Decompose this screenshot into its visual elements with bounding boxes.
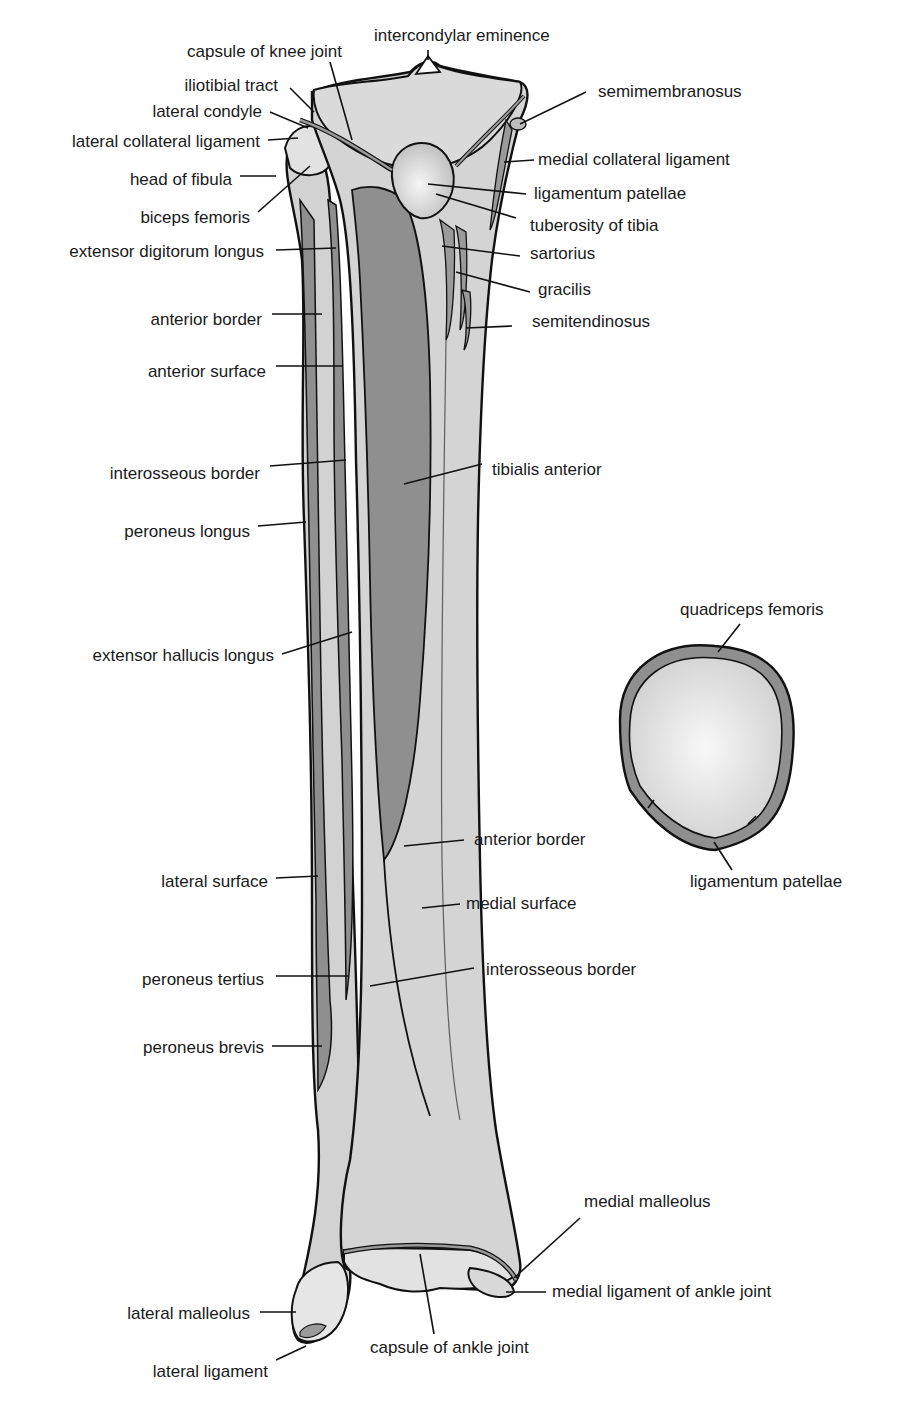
label-sartorius: sartorius [530, 244, 595, 264]
label-semitendinosus: semitendinosus [532, 312, 650, 332]
leader-medial-malleolus [514, 1218, 580, 1278]
label-capsule-of-ankle-joint: capsule of ankle joint [370, 1338, 529, 1358]
label-quadriceps-femoris: quadriceps femoris [680, 600, 824, 620]
label-lateral-surface: lateral surface [161, 872, 268, 892]
label-ligamentum-patellae-patella: ligamentum patellae [690, 872, 842, 892]
label-medial-surface: medial surface [466, 894, 577, 914]
label-iliotibial-tract: iliotibial tract [184, 76, 278, 96]
label-lateral-collateral-ligament: lateral collateral ligament [72, 132, 260, 152]
label-medial-ligament-of-ankle-joint: medial ligament of ankle joint [552, 1282, 771, 1302]
patella [620, 645, 794, 850]
label-anterior-border-fibula: anterior border [150, 310, 262, 330]
leader-peroneus-longus [258, 522, 306, 526]
anatomy-illustration [0, 0, 904, 1402]
label-ligamentum-patellae: ligamentum patellae [534, 184, 686, 204]
label-lateral-malleolus: lateral malleolus [127, 1304, 250, 1324]
label-peroneus-longus: peroneus longus [124, 522, 250, 542]
semimembranosus-attachment [510, 118, 526, 130]
label-medial-collateral-ligament: medial collateral ligament [538, 150, 730, 170]
label-lateral-condyle: lateral condyle [152, 102, 262, 122]
label-intercondylar-eminence: intercondylar eminence [374, 26, 550, 46]
label-gracilis: gracilis [538, 280, 591, 300]
label-peroneus-tertius: peroneus tertius [142, 970, 264, 990]
label-interosseous-border-fibula: interosseous border [110, 464, 260, 484]
label-tibialis-anterior: tibialis anterior [492, 460, 602, 480]
leader-iliotibial [290, 88, 314, 112]
label-extensor-digitorum-longus: extensor digitorum longus [69, 242, 264, 262]
label-biceps-femoris: biceps femoris [140, 208, 250, 228]
label-peroneus-brevis: peroneus brevis [143, 1038, 264, 1058]
label-tuberosity-of-tibia: tuberosity of tibia [530, 216, 659, 236]
leader-lateral-ligament [276, 1346, 306, 1360]
label-head-of-fibula: head of fibula [130, 170, 232, 190]
label-lateral-ligament: lateral ligament [153, 1362, 268, 1382]
label-interosseous-border-tibia: interosseous border [486, 960, 636, 980]
diagram-canvas: intercondylar eminence capsule of knee j… [0, 0, 904, 1402]
leader-semimembranosus [520, 92, 586, 124]
label-anterior-border-tibia: anterior border [474, 830, 586, 850]
label-anterior-surface: anterior surface [148, 362, 266, 382]
label-extensor-hallucis-longus: extensor hallucis longus [93, 646, 274, 666]
label-semimembranosus: semimembranosus [598, 82, 742, 102]
label-medial-malleolus: medial malleolus [584, 1192, 711, 1212]
label-capsule-knee-joint: capsule of knee joint [187, 42, 342, 62]
